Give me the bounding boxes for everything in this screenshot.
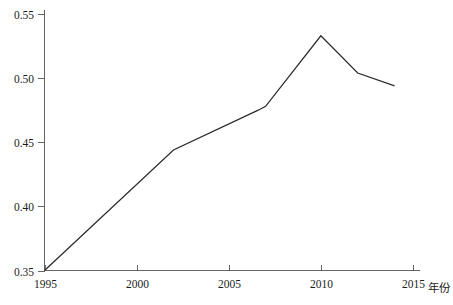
x-tick-label: 1995: [34, 278, 57, 290]
chart-background: [0, 0, 453, 305]
x-tick-label: 2000: [126, 278, 149, 290]
y-tick-label: 0.55: [14, 9, 34, 21]
y-tick-label: 0.40: [14, 201, 34, 213]
x-tick-label: 2005: [218, 278, 241, 290]
y-tick-label: 0.50: [14, 73, 34, 85]
line-chart: 0.350.400.450.500.55 1995200020052010201…: [0, 0, 453, 305]
x-tick-label: 2010: [310, 278, 333, 290]
x-tick-label: 2015: [402, 278, 425, 290]
x-axis-label: 年份: [428, 281, 451, 294]
y-tick-label: 0.35: [14, 266, 34, 278]
y-tick-label: 0.45: [14, 137, 34, 149]
chart-canvas: 0.350.400.450.500.55 1995200020052010201…: [0, 0, 453, 305]
